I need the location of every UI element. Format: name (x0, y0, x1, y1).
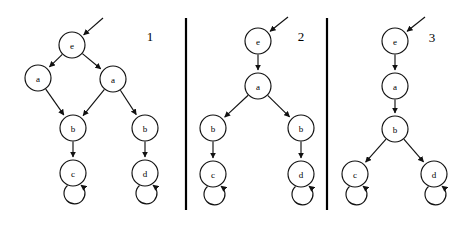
node-label: e (393, 37, 397, 47)
node-label: a (256, 82, 260, 92)
graph-edge (46, 89, 64, 115)
graph-node: d (132, 160, 158, 186)
node-label: d (299, 170, 304, 180)
panel-number-label: 1 (147, 29, 154, 44)
panel-number-label: 3 (429, 30, 436, 45)
node-label: b (143, 124, 148, 134)
start-entry-arrow (84, 18, 103, 35)
graph-node: c (200, 161, 226, 187)
self-loop-edge (136, 185, 157, 204)
self-loop-edge (292, 186, 313, 205)
start-entry-arrow (270, 17, 288, 31)
node-label: c (353, 170, 357, 180)
node-label: d (143, 169, 148, 179)
graph-node: b (382, 116, 408, 142)
graph-node: e (245, 28, 271, 54)
self-loop-edge (64, 185, 85, 204)
node-label: b (299, 124, 304, 134)
node-label: a (111, 75, 115, 85)
graph-node: d (288, 161, 314, 187)
graph-edge (120, 90, 136, 114)
self-loop-edge (425, 186, 446, 205)
panel-number-label: 2 (298, 29, 305, 44)
graph-edge (49, 54, 62, 66)
graph-node: b (288, 115, 314, 141)
graph-edge (268, 95, 290, 116)
node-label: e (70, 41, 74, 51)
graph-node: d (421, 161, 447, 187)
graph-node: a (25, 65, 51, 91)
graph-triptych-svg: eaabbcdeabbcdeabcd 123 (0, 0, 470, 225)
node-label: d (432, 170, 437, 180)
graph-node: a (245, 73, 271, 99)
figure-container: eaabbcdeabbcdeabcd 123 (0, 0, 470, 225)
self-loops-layer (64, 185, 446, 205)
node-label: c (71, 169, 75, 179)
graph-edge (404, 139, 424, 162)
node-label: b (211, 124, 216, 134)
graph-node: b (60, 115, 86, 141)
graph-node: c (60, 160, 86, 186)
nodes-layer: eaabbcdeabbcdeabcd (25, 28, 447, 187)
node-label: a (36, 74, 40, 84)
graph-edge (82, 54, 100, 69)
start-entry-arrow (407, 17, 425, 31)
graph-edge (225, 95, 248, 117)
graph-node: b (132, 115, 158, 141)
node-label: b (393, 125, 398, 135)
node-label: b (71, 124, 76, 134)
graph-node: e (382, 28, 408, 54)
edges-layer (46, 17, 425, 162)
graph-edge (366, 139, 386, 162)
graph-edge (83, 89, 104, 115)
self-loop-edge (204, 186, 225, 205)
graph-node: c (342, 161, 368, 187)
node-label: e (256, 37, 260, 47)
graph-node: a (382, 73, 408, 99)
graph-node: e (59, 32, 85, 58)
graph-node: b (200, 115, 226, 141)
graph-node: a (100, 66, 126, 92)
self-loop-edge (346, 186, 367, 205)
node-label: a (393, 82, 397, 92)
node-label: c (211, 170, 215, 180)
